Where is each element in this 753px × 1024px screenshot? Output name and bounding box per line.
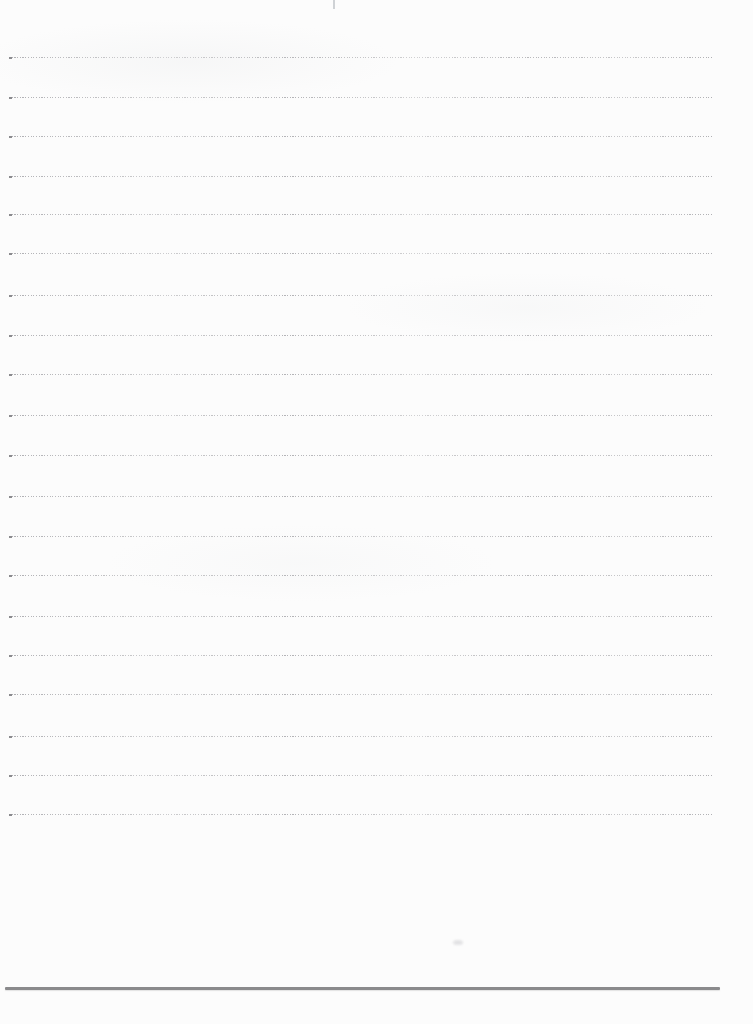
ruled-line [9,455,713,457]
line-start-dot [9,57,12,59]
line-start-dot [9,335,12,337]
ruled-line [9,496,713,498]
ruled-line [9,97,713,99]
ruled-line [9,295,713,297]
line-start-dot [9,496,12,498]
ruled-line [9,57,713,59]
ruled-line [9,214,713,216]
line-start-dot [9,176,12,178]
scanned-lined-paper-page [0,0,753,1024]
line-start-dot [9,214,12,216]
line-start-dot [9,374,12,376]
ruled-line [9,335,713,337]
line-start-dot [9,736,12,738]
line-start-dot [9,97,12,99]
ruled-line [9,374,713,376]
line-start-dot [9,616,12,618]
line-start-dot [9,814,12,816]
ruled-line [9,694,713,696]
line-start-dot [9,455,12,457]
line-start-dot [9,655,12,657]
ruled-line [9,775,713,777]
line-start-dot [9,694,12,696]
ruled-line [9,253,713,255]
line-start-dot [9,536,12,538]
line-start-dot [9,415,12,417]
ruled-line [9,575,713,577]
ruled-line [9,415,713,417]
footer-rule [5,987,720,990]
ruled-line [9,814,713,816]
line-start-dot [9,775,12,777]
line-start-dot [9,295,12,297]
ruled-line [9,736,713,738]
scan-smudge-artifact [453,940,463,945]
ruled-line [9,176,713,178]
line-start-dot [9,253,12,255]
line-start-dot [9,575,12,577]
line-start-dot [9,136,12,138]
ruled-line [9,616,713,618]
ruled-line [9,536,713,538]
ruled-line [9,136,713,138]
ruled-line [9,655,713,657]
top-center-tick-artifact [333,0,335,9]
